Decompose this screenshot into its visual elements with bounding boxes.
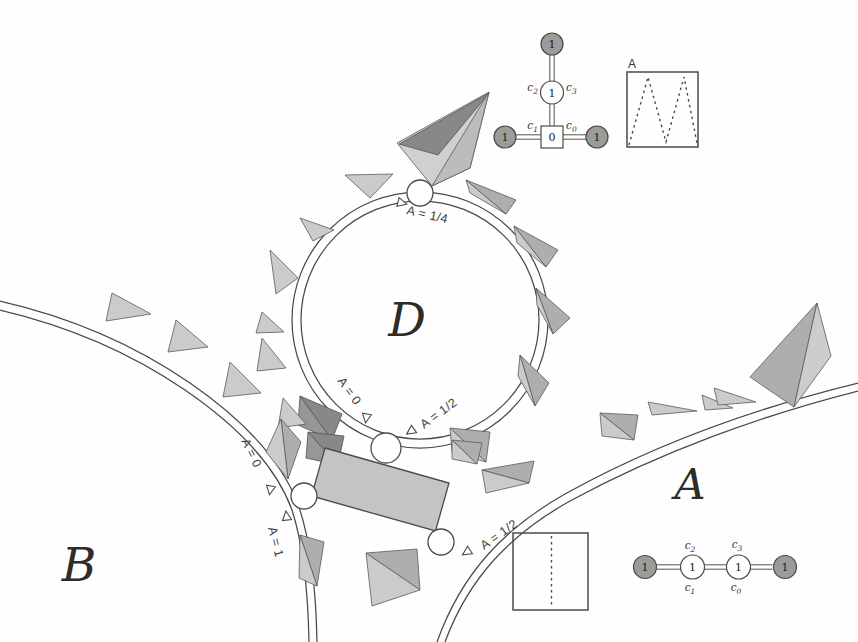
tooth <box>270 250 298 294</box>
label-sub: 3 <box>572 87 577 96</box>
arrow-marker <box>460 546 472 558</box>
tooth <box>300 218 334 241</box>
label-sub: 2 <box>532 87 538 96</box>
tooth <box>514 226 558 267</box>
split-square-inset <box>513 533 588 610</box>
region-label-b: B <box>61 537 97 592</box>
arrow-marker <box>361 413 371 423</box>
node-value: 1 <box>549 38 556 51</box>
label-sub: 1 <box>691 587 696 596</box>
arc-a-inner-line <box>445 391 858 642</box>
edge-label-c3: c3 <box>732 538 743 553</box>
arrow-marker <box>265 485 275 495</box>
fan-flag <box>397 92 489 186</box>
tooth <box>223 362 261 397</box>
a-label-mid: A = 1/2 <box>478 517 520 553</box>
arrow-marker <box>281 511 291 521</box>
d-label-bottom-right: A = 1/2 <box>418 395 460 431</box>
wave-square-inset: A <box>627 57 698 147</box>
figure-canvas: D A B A = 1/4 A = 0 A = 1/2 A = 0 A = 1 … <box>0 0 858 642</box>
b-label-lower: A = 1 <box>265 525 286 558</box>
label-sub: 3 <box>738 544 743 553</box>
b-label-upper: A = 0 <box>238 436 264 470</box>
wave-square-label: A <box>628 57 636 71</box>
node-value: 1 <box>502 131 509 144</box>
node-value: 1 <box>549 87 556 100</box>
tooth <box>168 320 208 352</box>
edge-label-c3: c3 <box>566 81 577 96</box>
path-graph-inset: 1 1 1 1 c2 c3 c1 c0 <box>634 538 797 596</box>
region-label-a: A <box>670 459 705 509</box>
tooth <box>106 293 151 321</box>
node-on-arc-a <box>428 529 454 555</box>
edge-label-c0: c0 <box>566 119 577 134</box>
tree-graph-inset: 1 1 0 1 1 c2 c3 c1 c0 <box>494 33 608 148</box>
tooth <box>648 402 697 415</box>
arc-a <box>437 383 858 642</box>
node-on-arc-b <box>291 483 317 509</box>
gear-teeth-arc-a <box>452 303 831 493</box>
node-value: 1 <box>689 561 696 574</box>
node-bottom-of-d <box>371 433 401 463</box>
d-label-bottom-left: A = 0 <box>335 375 364 408</box>
arrow-marker <box>397 198 408 209</box>
label-sub: 2 <box>690 545 696 554</box>
node-value: 1 <box>782 561 789 574</box>
edge-label-c0: c0 <box>731 581 742 596</box>
node-top-of-d <box>407 180 433 206</box>
node-value: 0 <box>549 131 556 144</box>
node-value: 1 <box>735 561 742 574</box>
tooth <box>345 174 393 198</box>
tooth <box>466 180 516 214</box>
node-value: 1 <box>642 561 649 574</box>
label-sub: 0 <box>737 587 742 596</box>
wave-square <box>627 72 698 147</box>
tooth <box>256 312 284 333</box>
edge-label-c1: c1 <box>685 581 696 596</box>
split-square <box>513 533 588 610</box>
triangle-wave <box>629 77 697 145</box>
figure-stage: D A B A = 1/4 A = 0 A = 1/2 A = 0 A = 1 … <box>0 0 858 642</box>
label-sub: 1 <box>533 125 538 134</box>
d-label-top: A = 1/4 <box>405 203 449 226</box>
arc-a-outer-line <box>437 383 858 642</box>
arrow-marker <box>404 425 417 438</box>
tooth <box>257 338 286 371</box>
tooth <box>714 388 756 405</box>
region-label-d: D <box>387 292 426 347</box>
edge-label-c2: c2 <box>685 539 696 554</box>
edge-label-c2: c2 <box>527 81 538 96</box>
label-sub: 0 <box>572 125 577 134</box>
node-value: 1 <box>594 131 601 144</box>
edge-label-c1: c1 <box>527 119 538 134</box>
